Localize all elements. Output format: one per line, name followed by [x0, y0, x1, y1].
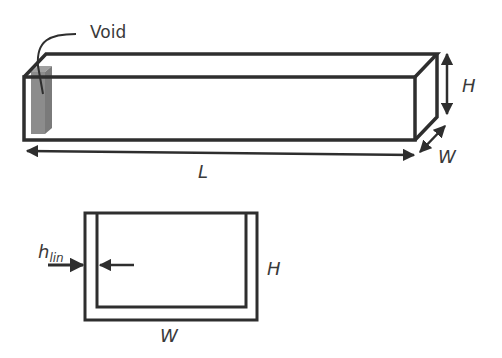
length-arrow [27, 151, 414, 155]
width-label-2d: W [160, 325, 179, 346]
beam-front-face [24, 77, 415, 140]
beam-diagram: Void L H W hlin H W [0, 0, 502, 358]
length-label: L [198, 161, 208, 182]
liner-inner [97, 213, 246, 307]
height-label-2d: H [267, 258, 281, 279]
cross-section [85, 213, 257, 320]
outer-section [85, 213, 257, 320]
width-label-3d: W [438, 146, 457, 167]
beam-top-back-edge [24, 54, 437, 77]
void-label: Void [90, 22, 126, 42]
height-label-3d: H [462, 75, 476, 96]
beam-3d [24, 54, 437, 140]
liner-thickness-label: hlin [38, 241, 64, 265]
